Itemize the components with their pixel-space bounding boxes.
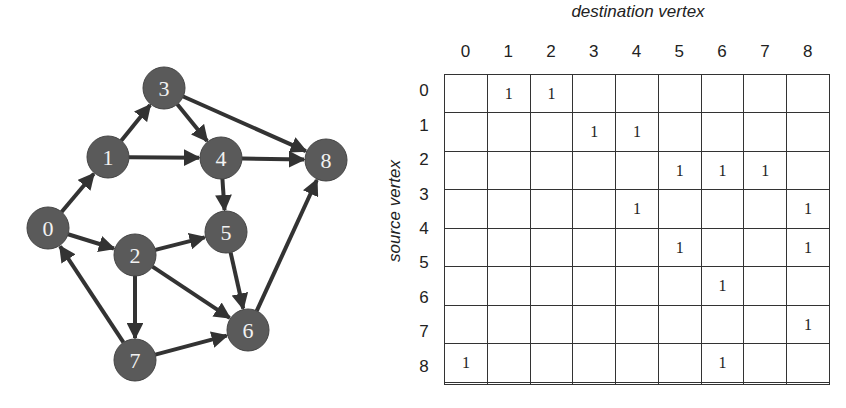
matrix-cell [487, 267, 530, 305]
source-vertex-title: source vertex [385, 151, 405, 271]
matrix-row: 11 [445, 75, 830, 113]
edge-7-to-6 [155, 336, 226, 355]
matrix-cell [787, 113, 830, 151]
matrix-cell [530, 228, 573, 266]
matrix-cell [487, 190, 530, 228]
matrix-cell [445, 382, 488, 384]
matrix-cell [530, 267, 573, 305]
col-label: 7 [743, 42, 786, 66]
edge-1-to-3 [121, 105, 150, 141]
vertex-2: 2 [114, 234, 156, 276]
matrix-cell [487, 382, 530, 384]
matrix-cell [744, 228, 787, 266]
matrix-cell: 1 [744, 151, 787, 189]
adjacency-matrix: 111111111111111 [444, 74, 830, 385]
matrix-cell [744, 382, 787, 384]
edge-2-to-5 [155, 237, 204, 249]
matrix-cell [744, 190, 787, 228]
matrix-cell [658, 190, 701, 228]
matrix-row: 11 [445, 113, 830, 151]
matrix-cell [658, 382, 701, 384]
matrix-cell [573, 267, 616, 305]
row-label: 6 [412, 281, 436, 315]
matrix-cell: 1 [616, 113, 659, 151]
matrix-cell [744, 75, 787, 113]
directed-graph: 012345678 [0, 0, 370, 408]
matrix-cell: 1 [787, 228, 830, 266]
matrix-cell [487, 151, 530, 189]
matrix-cell: 1 [530, 75, 573, 113]
row-label: 2 [412, 143, 436, 177]
vertex-label: 8 [321, 148, 332, 173]
matrix-cell [487, 305, 530, 343]
matrix-cell: 1 [787, 305, 830, 343]
matrix-cell [616, 151, 659, 189]
matrix-cell [616, 228, 659, 266]
matrix-cell [530, 344, 573, 382]
matrix-cell: 1 [658, 151, 701, 189]
matrix-row [445, 382, 830, 384]
vertex-5: 5 [205, 211, 247, 253]
matrix-cell [530, 382, 573, 384]
matrix-cell [573, 190, 616, 228]
matrix-cell [787, 382, 830, 384]
row-label: 4 [412, 212, 436, 246]
matrix-cell [530, 190, 573, 228]
matrix-cell [787, 151, 830, 189]
col-label: 5 [658, 42, 701, 66]
col-label: 3 [572, 42, 615, 66]
vertex-label: 7 [130, 348, 141, 373]
matrix-cell: 1 [487, 75, 530, 113]
row-label: 8 [412, 350, 436, 384]
matrix-cell [573, 75, 616, 113]
vertex-label: 1 [103, 145, 114, 170]
matrix-cell [445, 113, 488, 151]
edge-0-to-2 [68, 234, 114, 248]
matrix-cell: 1 [616, 190, 659, 228]
vertex-label: 0 [43, 216, 54, 241]
matrix-cell [701, 113, 744, 151]
matrix-cell: 1 [573, 113, 616, 151]
matrix-cell: 1 [445, 344, 488, 382]
col-label: 6 [701, 42, 744, 66]
edge-4-to-8 [242, 158, 304, 159]
col-label: 0 [444, 42, 487, 66]
matrix-cell [701, 228, 744, 266]
matrix-cell [787, 344, 830, 382]
matrix-cell [616, 305, 659, 343]
matrix-cell: 1 [787, 190, 830, 228]
matrix-cell: 1 [701, 151, 744, 189]
row-label: 3 [412, 177, 436, 211]
edge-0-to-1 [62, 174, 94, 212]
matrix-cell [487, 228, 530, 266]
matrix-cell [445, 267, 488, 305]
matrix-cell [701, 190, 744, 228]
col-label: 8 [786, 42, 829, 66]
matrix-row: 1 [445, 267, 830, 305]
matrix-cell [487, 344, 530, 382]
row-label: 0 [412, 74, 436, 108]
matrix-cell [701, 382, 744, 384]
vertex-label: 2 [130, 243, 141, 268]
matrix-cell [616, 267, 659, 305]
matrix-cell [658, 75, 701, 113]
column-labels: 0 1 2 3 4 5 6 7 8 [444, 42, 829, 66]
vertex-0: 0 [27, 207, 69, 249]
matrix-cell [616, 75, 659, 113]
matrix-row: 11 [445, 344, 830, 382]
matrix-cell [573, 228, 616, 266]
matrix-cell [658, 113, 701, 151]
matrix-cell [530, 305, 573, 343]
matrix-cell [616, 344, 659, 382]
matrix-cell [787, 267, 830, 305]
vertex-label: 5 [221, 220, 232, 245]
matrix-cell [573, 382, 616, 384]
matrix-cell [445, 228, 488, 266]
vertex-label: 3 [159, 76, 170, 101]
matrix-cell [744, 305, 787, 343]
matrix-row: 1 [445, 305, 830, 343]
matrix-cell [530, 151, 573, 189]
matrix-row: 11 [445, 190, 830, 228]
col-label: 4 [615, 42, 658, 66]
edge-2-to-6 [152, 267, 229, 318]
